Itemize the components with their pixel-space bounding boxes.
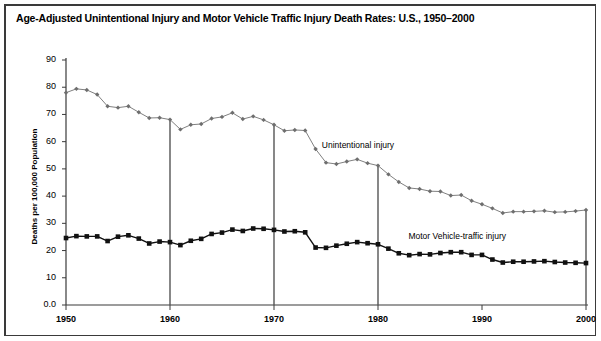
data-point-unintentional-2000 [584,208,588,212]
data-point-motorvehicle-1971 [282,229,287,234]
data-point-motorvehicle-1970 [272,228,277,233]
data-point-unintentional-1987 [449,193,453,197]
data-point-motorvehicle-1992 [501,260,506,265]
data-point-unintentional-1988 [459,193,463,197]
data-point-motorvehicle-1983 [407,253,412,258]
data-point-motorvehicle-1960 [168,240,173,245]
data-point-unintentional-1967 [241,117,245,121]
data-point-unintentional-1971 [282,129,286,133]
data-point-unintentional-1994 [521,209,525,213]
data-point-motorvehicle-1968 [251,226,256,231]
data-point-unintentional-1973 [303,128,307,132]
data-point-unintentional-1962 [189,123,193,127]
data-point-motorvehicle-1974 [313,245,318,250]
series-label-motor-vehicle-injury: Motor Vehicle-traffic injury [408,231,506,241]
data-point-unintentional-1990 [480,202,484,206]
y-tick-label: 0.0 [30,300,56,309]
data-point-motorvehicle-1978 [355,240,360,245]
data-point-motorvehicle-1980 [376,242,381,247]
data-point-motorvehicle-1964 [209,232,214,237]
x-tick-label: 1970 [252,315,296,324]
y-tick-label: 90 [30,55,56,64]
data-point-motorvehicle-1998 [563,260,568,265]
data-point-motorvehicle-1984 [417,252,422,257]
data-point-motorvehicle-1996 [542,259,547,264]
data-point-motorvehicle-1957 [137,236,142,241]
data-point-unintentional-1995 [532,209,536,213]
chart-canvas [0,0,601,341]
data-point-unintentional-1983 [407,186,411,190]
data-point-unintentional-1976 [334,162,338,166]
x-tick-label: 1980 [356,315,400,324]
data-point-motorvehicle-1973 [303,230,308,235]
data-point-motorvehicle-1954 [105,239,110,244]
data-point-motorvehicle-2000 [584,261,589,266]
x-tick-label: 2000 [564,315,601,324]
data-point-unintentional-1992 [501,211,505,215]
data-point-motorvehicle-1975 [324,246,329,251]
data-point-motorvehicle-1987 [449,250,454,255]
data-point-motorvehicle-1985 [428,252,433,257]
data-point-motorvehicle-1981 [386,246,391,251]
data-point-unintentional-1977 [345,159,349,163]
x-tick-label: 1960 [148,315,192,324]
data-point-unintentional-1972 [293,128,297,132]
data-point-unintentional-1985 [428,189,432,193]
data-point-unintentional-1999 [573,209,577,213]
data-point-motorvehicle-1977 [345,241,350,246]
y-tick-label: 70 [30,109,56,118]
data-point-motorvehicle-1965 [220,230,225,235]
data-point-motorvehicle-1969 [261,226,266,231]
data-point-unintentional-1996 [542,209,546,213]
data-point-unintentional-1951 [74,87,78,91]
data-point-unintentional-1993 [511,209,515,213]
data-point-motorvehicle-1967 [241,229,246,234]
x-tick-label: 1950 [44,315,88,324]
data-point-motorvehicle-1990 [480,253,485,258]
data-point-motorvehicle-1999 [573,261,578,266]
data-point-unintentional-1986 [438,189,442,193]
data-point-motorvehicle-1963 [199,237,204,242]
data-point-motorvehicle-1979 [365,241,370,246]
data-point-unintentional-1952 [85,88,89,92]
data-point-motorvehicle-1972 [293,229,298,234]
data-point-unintentional-1978 [355,157,359,161]
data-point-motorvehicle-1993 [511,259,516,264]
data-point-unintentional-1965 [220,115,224,119]
y-tick-label: 30 [30,218,56,227]
data-point-motorvehicle-1986 [438,251,443,256]
data-point-motorvehicle-1958 [147,241,152,246]
data-point-motorvehicle-1961 [178,243,183,248]
y-tick-label: 50 [30,164,56,173]
data-point-motorvehicle-1988 [459,250,464,255]
data-point-motorvehicle-1952 [85,234,90,239]
x-tick-label: 1990 [460,315,504,324]
data-point-unintentional-1963 [199,122,203,126]
data-point-unintentional-1955 [116,105,120,109]
data-point-unintentional-1959 [157,116,161,120]
data-point-motorvehicle-1955 [116,234,121,239]
data-point-motorvehicle-1991 [490,257,495,262]
data-point-motorvehicle-1994 [521,259,526,264]
data-point-unintentional-1968 [251,114,255,118]
plot-area: Deaths per 100,000 Population 0.01020304… [0,0,601,341]
data-point-unintentional-1991 [490,206,494,210]
data-point-unintentional-1964 [209,116,213,120]
data-point-motorvehicle-1953 [95,234,100,239]
y-tick-label: 40 [30,191,56,200]
data-point-unintentional-1950 [64,90,68,94]
data-point-motorvehicle-1966 [230,227,235,232]
data-point-motorvehicle-1995 [532,259,537,264]
data-point-motorvehicle-1976 [334,243,339,248]
data-point-unintentional-1958 [147,116,151,120]
data-point-unintentional-1956 [126,104,130,108]
data-point-unintentional-1969 [261,118,265,122]
data-point-motorvehicle-1956 [126,233,131,238]
data-point-motorvehicle-1982 [397,251,402,256]
chart-figure: Age-Adjusted Unintentional Injury and Mo… [0,0,601,341]
data-point-unintentional-1957 [137,110,141,114]
y-tick-label: 80 [30,82,56,91]
data-point-motorvehicle-1950 [64,236,69,241]
data-point-motorvehicle-1997 [553,260,558,265]
data-point-motorvehicle-1951 [74,234,79,239]
